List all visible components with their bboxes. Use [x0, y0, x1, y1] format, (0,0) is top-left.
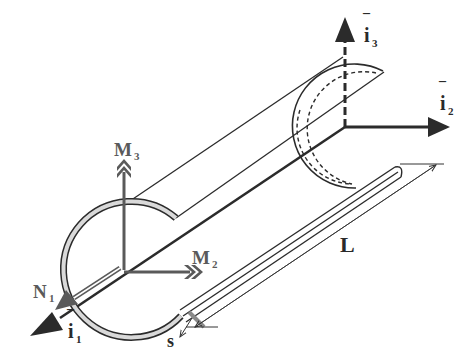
m3-load — [117, 159, 131, 270]
tube-diagram: i ¯ 3 i ¯ 2 i ¯ 1 M 3 M 2 N 1 L s — [0, 0, 472, 362]
label-length: L — [340, 232, 355, 257]
back-axes — [335, 17, 450, 137]
label-s: s — [167, 331, 174, 351]
i2-arrow-icon — [428, 117, 450, 137]
svg-text:1: 1 — [76, 333, 82, 345]
svg-text:¯: ¯ — [438, 80, 447, 95]
i1-arrow-icon — [30, 312, 63, 336]
label-m3: M 3 — [114, 139, 140, 162]
svg-text:i: i — [68, 320, 74, 342]
svg-text:2: 2 — [212, 258, 218, 270]
svg-text:i: i — [364, 24, 370, 46]
svg-text:¯: ¯ — [362, 12, 371, 27]
label-m2: M 2 — [192, 247, 218, 270]
svg-text:M: M — [114, 139, 132, 160]
tube-outline — [124, 57, 384, 218]
label-n1: N 1 — [33, 281, 55, 304]
svg-text:M: M — [192, 247, 210, 268]
tube-axis — [60, 127, 345, 318]
slit-edge — [180, 167, 402, 322]
svg-text:2: 2 — [448, 105, 454, 117]
length-dimension — [186, 164, 444, 327]
svg-text:3: 3 — [134, 150, 140, 162]
svg-text:3: 3 — [372, 37, 378, 49]
i3-arrow-icon — [335, 17, 355, 42]
svg-text:N: N — [33, 281, 47, 302]
svg-text:1: 1 — [49, 292, 55, 304]
label-i3: i ¯ 3 — [362, 12, 378, 49]
front-cross-section — [63, 201, 181, 337]
label-i2: i ¯ 2 — [438, 80, 454, 117]
svg-text:¯: ¯ — [66, 308, 75, 323]
svg-text:i: i — [440, 92, 446, 114]
